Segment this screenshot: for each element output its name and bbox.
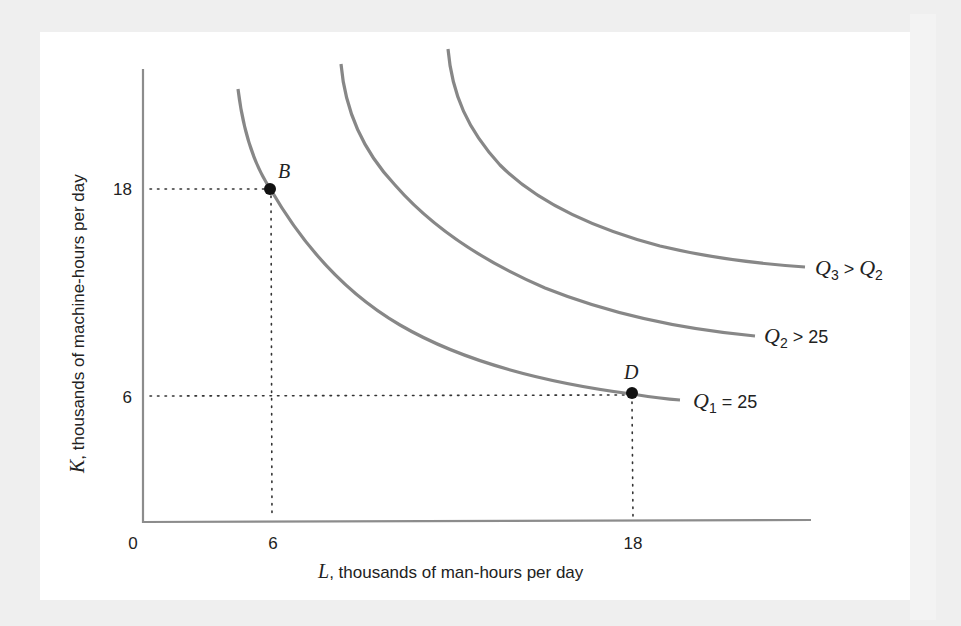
q2-label: Q2 > 25 [764, 323, 828, 351]
guide-b-vertical [271, 196, 272, 518]
x-axis [142, 520, 811, 522]
y-tick-6: 6 [123, 388, 132, 407]
x-tick-6: 6 [268, 534, 277, 553]
point-d [626, 387, 638, 399]
y-tick-18: 18 [113, 180, 132, 199]
x-tick-0: 0 [128, 534, 137, 553]
isoquant-chart: B D Q1 = 25 Q2 > 25 Q3 > Q2 0 6 18 18 6 … [0, 0, 961, 626]
x-axis-title: L, thousands of man-hours per day [317, 560, 584, 582]
point-b-label: B [278, 160, 290, 182]
q1-label: Q1 = 25 [693, 388, 757, 416]
isoquant-q3 [448, 49, 805, 267]
guide-d-horizontal [150, 395, 625, 396]
point-b [264, 183, 276, 195]
guide-lines [150, 189, 633, 518]
y-axis-title: K, thousands of machine-hours per day [66, 174, 88, 474]
q3-label: Q3 > Q2 [815, 255, 883, 283]
isoquant-q1 [238, 89, 680, 400]
guide-d-vertical [632, 402, 633, 518]
point-d-label: D [623, 361, 639, 383]
x-tick-18: 18 [624, 534, 643, 553]
